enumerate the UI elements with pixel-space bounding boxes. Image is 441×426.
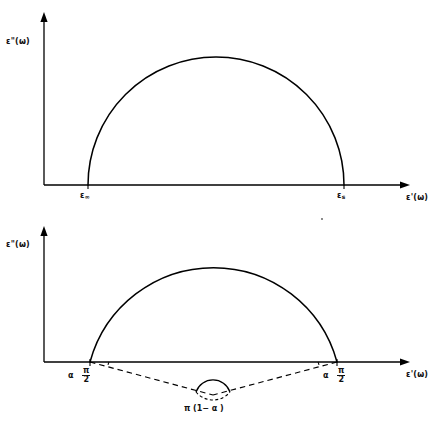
- cole-cole-figure: [0, 0, 441, 426]
- epsilon-static-subscript: s: [342, 193, 346, 200]
- left-fraction-denominator: 2: [82, 375, 90, 384]
- scan-speck: [321, 218, 323, 220]
- cole-cole-left-alpha-symbol: α: [68, 371, 74, 380]
- cole-cole-left-pi-over-two: π 2: [82, 367, 90, 385]
- debye-y-axis-label: ε"(ω): [6, 38, 30, 46]
- cole-cole-right-pi-over-two: π 2: [337, 367, 345, 385]
- cole-cole-x-axis-label: ε'(ω): [406, 371, 428, 379]
- debye-x-axis-label: ε'(ω): [406, 194, 428, 202]
- cole-cole-right-alpha-symbol: α: [323, 371, 329, 380]
- epsilon-infinity-subscript: ∞: [85, 193, 90, 200]
- cole-cole-central-angle-label: π (1− α ): [184, 404, 224, 413]
- debye-tick-label-epsilon-infinity: ε∞: [80, 192, 90, 200]
- right-fraction-numerator: π: [337, 367, 345, 375]
- cole-cole-y-axis-label: ε"(ω): [6, 241, 30, 249]
- right-fraction-denominator: 2: [337, 375, 345, 384]
- debye-tick-label-epsilon-static: εs: [337, 192, 345, 200]
- left-fraction-numerator: π: [82, 367, 90, 375]
